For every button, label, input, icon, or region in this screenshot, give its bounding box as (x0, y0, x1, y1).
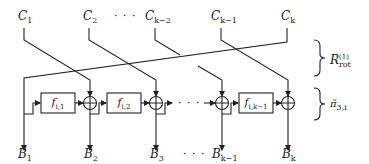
output-label-b1: B1 (18, 148, 32, 164)
ellipsis-bottom: · · · (183, 148, 205, 161)
output-label-bk-1: Bk−1 (212, 148, 237, 164)
output-label-b3: B3 (150, 148, 164, 164)
wire-ck-1-in (198, 66, 222, 96)
brace-label-rotation: R(1)rot (330, 51, 351, 71)
wire-c2 (89, 28, 156, 96)
function-label-fk-1: fi,k−1 (239, 96, 273, 111)
xor-2 (150, 97, 163, 110)
wire-ck-2 (155, 28, 180, 55)
input-label-ck-2: Ck−2 (145, 10, 171, 27)
function-label-f2: fi,2 (107, 96, 141, 111)
input-label-c1: C1 (18, 10, 32, 27)
xor-4 (282, 97, 295, 110)
output-label-b2: B2 (84, 148, 98, 164)
input-label-c2: C2 (83, 10, 97, 27)
ellipsis-top: · · · (114, 10, 136, 23)
brace-rot (314, 40, 325, 76)
brace-pi (314, 88, 325, 120)
input-label-ck-1: Ck−1 (211, 10, 237, 27)
xor-3 (216, 97, 229, 110)
diagram-canvas (0, 0, 369, 164)
wire-c1 (24, 28, 90, 96)
input-label-ck: Ck (281, 10, 295, 27)
xor-1 (84, 97, 97, 110)
function-label-f1: fi,1 (41, 96, 75, 111)
ellipsis-middle: · · · (178, 97, 200, 110)
brace-label-permutation: π̃3,i (330, 98, 347, 114)
output-label-bk: Bk (282, 148, 296, 164)
feed-f1 (24, 103, 40, 114)
wire-ck-1 (221, 28, 288, 96)
